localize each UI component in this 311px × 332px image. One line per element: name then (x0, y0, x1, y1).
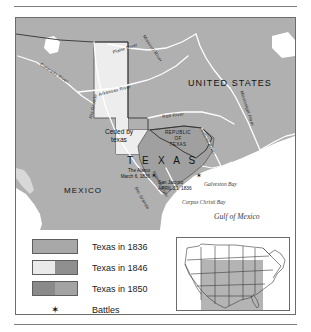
battle-marker-the-alamo: ✶ (151, 173, 156, 178)
inset-geometry (177, 238, 289, 310)
main-map: UNITED STATES MEXICO T E X A S REPUBLIC … (16, 18, 295, 230)
swatch-half-right (55, 261, 77, 274)
swatch-half-right (55, 282, 77, 295)
legend-item-texas-1850: Texas in 1850 (32, 278, 148, 299)
swatch-half-left (33, 261, 55, 274)
swatch-half-right (55, 240, 77, 253)
legend-label-texas-1846: Texas in 1846 (92, 263, 148, 273)
legend-rows: Texas in 1836 Texas in 1846 Texas in 185… (32, 236, 148, 315)
battle-marker-san-jacinto: ✶ (196, 173, 201, 178)
swatch-half-left (33, 282, 55, 295)
map-geometry (16, 18, 295, 230)
swatch-half-left (33, 240, 55, 253)
map-figure-frame: UNITED STATES MEXICO T E X A S REPUBLIC … (15, 17, 296, 315)
map-figure-page: UNITED STATES MEXICO T E X A S REPUBLIC … (0, 0, 311, 332)
legend-label-battles: Battles (92, 305, 120, 315)
legend-swatch-texas-1846 (32, 260, 78, 275)
legend-item-battles: ✶ Battles (32, 299, 148, 315)
legend-swatch-texas-1850 (32, 281, 78, 296)
legend-label-texas-1850: Texas in 1850 (92, 284, 148, 294)
top-divider-rule (14, 6, 297, 7)
legend-swatch-texas-1836 (32, 239, 78, 254)
bottom-divider-rule (14, 324, 297, 325)
united-states-locator-map (176, 237, 290, 311)
legend-item-texas-1846: Texas in 1846 (32, 257, 148, 278)
legend-label-texas-1836: Texas in 1836 (92, 242, 148, 252)
legend-item-texas-1836: Texas in 1836 (32, 236, 148, 257)
battles-star-icon: ✶ (32, 304, 78, 315)
